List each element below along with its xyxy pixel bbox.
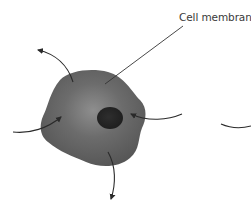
nucleus <box>97 107 123 129</box>
cell-diagram: Cell membrane <box>0 0 251 208</box>
membrane-leader-line <box>105 26 183 84</box>
cell-membrane-label: Cell membrane <box>179 11 251 23</box>
partial-arc-right-edge <box>221 124 251 128</box>
cell-body <box>41 70 146 166</box>
cell-diagram-svg <box>0 0 251 208</box>
